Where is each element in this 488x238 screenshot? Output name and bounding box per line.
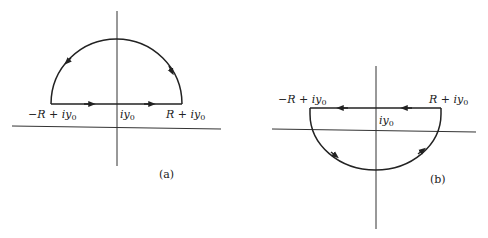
real-axis	[272, 129, 476, 132]
label-left: −R + iy0	[278, 93, 327, 107]
label-center: iy0	[379, 114, 394, 128]
caption-a: (a)	[159, 168, 174, 181]
contour-diagrams: −R + iy0 iy0 R + iy0 (a) −R + iy0 iy0 R …	[0, 0, 488, 238]
label-left: −R + iy0	[28, 108, 77, 122]
label-right: R + iy0	[428, 93, 468, 107]
label-center: iy0	[120, 108, 135, 122]
figure-b: −R + iy0 iy0 R + iy0 (b)	[272, 66, 476, 229]
caption-b: (b)	[430, 173, 446, 186]
label-right: R + iy0	[165, 108, 205, 122]
figure-a: −R + iy0 iy0 R + iy0 (a)	[12, 11, 221, 181]
